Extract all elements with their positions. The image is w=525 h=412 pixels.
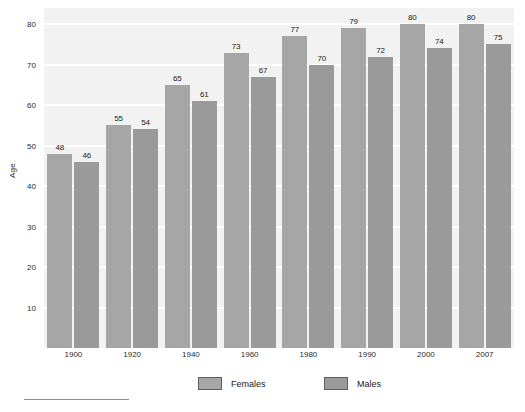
x-tick-label: 2007 <box>476 350 494 359</box>
bar <box>282 36 307 348</box>
bar <box>400 24 425 348</box>
y-tick-label: 30 <box>16 222 36 231</box>
bar-value-label: 48 <box>47 143 72 152</box>
bar <box>309 65 334 348</box>
chart-legend: FemalesMales <box>0 377 525 397</box>
legend-swatch <box>324 377 348 390</box>
x-tick-label: 1980 <box>299 350 317 359</box>
legend-item[interactable]: Females <box>198 377 266 390</box>
bar-value-label: 74 <box>427 37 452 46</box>
y-tick-label: 20 <box>16 263 36 272</box>
x-tick-label: 1940 <box>182 350 200 359</box>
bar-value-label: 61 <box>192 90 217 99</box>
bar <box>106 125 131 348</box>
legend-label: Females <box>231 379 266 389</box>
bar <box>486 44 511 348</box>
x-tick-label: 1920 <box>123 350 141 359</box>
bar <box>133 129 158 348</box>
legend-label: Males <box>357 379 381 389</box>
bar-value-label: 79 <box>341 17 366 26</box>
bar <box>251 77 276 348</box>
bar-value-label: 54 <box>133 118 158 127</box>
bar <box>47 154 72 348</box>
x-tick-label: 2000 <box>417 350 435 359</box>
bar <box>192 101 217 348</box>
bar-value-label: 80 <box>459 13 484 22</box>
bar-value-label: 65 <box>165 74 190 83</box>
y-tick-label: 70 <box>16 60 36 69</box>
bar-value-label: 72 <box>368 46 393 55</box>
bar <box>224 53 249 348</box>
bar <box>74 162 99 348</box>
x-axis-ticks: 19001920194019601980199020002007 <box>44 350 514 366</box>
bar-value-label: 77 <box>282 25 307 34</box>
y-tick-label: 80 <box>16 20 36 29</box>
bar <box>427 48 452 348</box>
legend-swatch <box>198 377 222 390</box>
y-tick-label: 60 <box>16 101 36 110</box>
bars-layer: 48465554656173677770797280748075 <box>44 8 514 348</box>
bar <box>459 24 484 348</box>
x-tick-label: 1900 <box>64 350 82 359</box>
x-tick-label: 1990 <box>358 350 376 359</box>
y-tick-label: 10 <box>16 303 36 312</box>
bar-value-label: 46 <box>74 151 99 160</box>
bar-value-label: 75 <box>486 33 511 42</box>
bar <box>165 85 190 348</box>
bottom-rule <box>24 399 129 400</box>
bar <box>341 28 366 348</box>
y-tick-label: 40 <box>16 182 36 191</box>
bar-chart: Age 1020304050607080 4846555465617367777… <box>0 0 525 412</box>
y-tick-label: 50 <box>16 141 36 150</box>
bar-value-label: 70 <box>309 54 334 63</box>
bar <box>368 57 393 348</box>
legend-item[interactable]: Males <box>324 377 381 390</box>
bar-value-label: 55 <box>106 114 131 123</box>
y-axis-ticks: 1020304050607080 <box>0 8 40 348</box>
x-tick-label: 1960 <box>241 350 259 359</box>
bar-value-label: 80 <box>400 13 425 22</box>
bar-value-label: 67 <box>251 66 276 75</box>
bar-value-label: 73 <box>224 42 249 51</box>
